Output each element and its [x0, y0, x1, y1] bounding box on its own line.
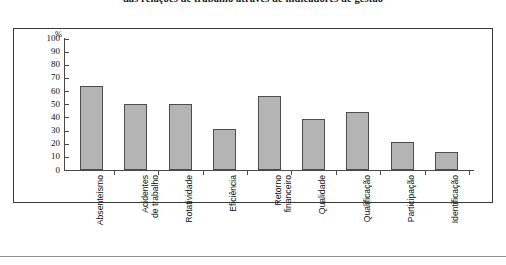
x-category-label: Participação [407, 175, 417, 259]
y-tick-mark [65, 170, 69, 171]
x-category-label: Identificação [451, 175, 461, 259]
y-tick-label: 0 [36, 166, 60, 175]
y-tick-label-text: 10 [36, 152, 60, 161]
x-tick-mark [114, 171, 115, 175]
x-tick-mark [203, 171, 204, 175]
bar [391, 142, 414, 170]
y-tick-mark [65, 52, 69, 53]
x-tick-mark [425, 171, 426, 175]
x-tick-mark [336, 171, 337, 175]
y-tick-label: 60 [36, 87, 60, 96]
y-tick-label-text: 100 [36, 34, 60, 43]
x-tick-mark [469, 171, 470, 175]
y-tick-label: 100 [36, 34, 60, 43]
y-tick-label: 80 [36, 60, 60, 69]
x-tick-mark [380, 171, 381, 175]
y-tick-mark [65, 39, 69, 40]
bar [258, 96, 281, 170]
x-category-label: Acidentes de trabalho [141, 175, 160, 259]
x-category-label: Retorno financeiro [274, 175, 293, 259]
y-tick-label: 20 [36, 139, 60, 148]
y-tick-mark [65, 65, 69, 66]
footer-divider [0, 256, 506, 257]
y-tick-mark [65, 144, 69, 145]
x-category-label: Rotatividade [185, 175, 195, 259]
x-category-label: Qualidade [318, 175, 328, 259]
y-tick-label-text: 50 [36, 100, 60, 109]
y-tick-mark [65, 117, 69, 118]
y-tick-label-text: 70 [36, 73, 60, 82]
bar [435, 152, 458, 170]
x-axis-line [64, 170, 474, 171]
y-tick-mark [65, 78, 69, 79]
chart-figure: das relações de trabalho através de indi… [0, 0, 506, 265]
x-tick-mark [247, 171, 248, 175]
bar [213, 129, 236, 170]
x-category-label: Qualificação [363, 175, 373, 259]
y-tick-label: 40 [36, 113, 60, 122]
bar [346, 112, 369, 170]
y-tick-label-text: 90 [36, 47, 60, 56]
y-tick-mark [65, 104, 69, 105]
y-tick-label: 50 [36, 100, 60, 109]
bar [80, 86, 103, 170]
y-tick-label-text: 0 [36, 166, 60, 175]
bar [169, 104, 192, 170]
y-tick-mark [65, 157, 69, 158]
y-tick-label: 70 [36, 73, 60, 82]
x-category-label: Eficiência [229, 175, 239, 259]
y-tick-label-text: 80 [36, 60, 60, 69]
y-tick-mark [65, 91, 69, 92]
y-tick-mark [65, 131, 69, 132]
y-tick-label-text: 40 [36, 113, 60, 122]
y-tick-label-text: 20 [36, 139, 60, 148]
y-tick-label: 30 [36, 126, 60, 135]
y-tick-label: 10 [36, 152, 60, 161]
x-category-label: Absenteísmo [96, 175, 106, 259]
bar [124, 104, 147, 170]
y-tick-label-text: 30 [36, 126, 60, 135]
chart-title: das relações de trabalho através de indi… [0, 0, 506, 4]
y-tick-label: 90 [36, 47, 60, 56]
bar [302, 119, 325, 170]
y-tick-label-text: 60 [36, 87, 60, 96]
